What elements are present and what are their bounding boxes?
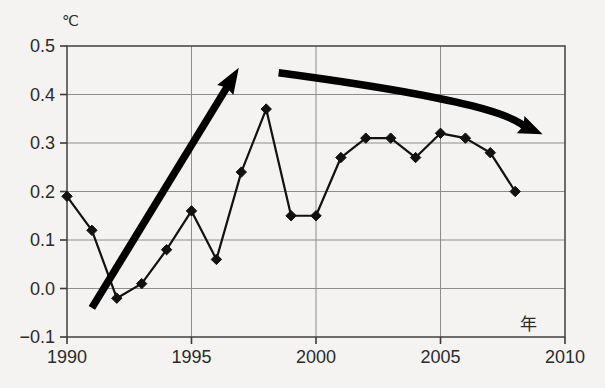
x-tick-label: 2010 [545,347,585,367]
x-axis-unit-label: 年 [520,315,537,334]
y-tick-label: 0.4 [30,85,55,105]
y-tick-label: 0.5 [30,36,55,56]
y-tick-label: 0.2 [30,182,55,202]
y-tick-label: 0.3 [30,133,55,153]
x-tick-label: 1995 [171,347,211,367]
x-tick-label: 1990 [47,347,87,367]
chart-canvas: −0.10.00.10.20.30.40.5 19901995200020052… [0,0,605,388]
x-tick-label: 2005 [420,347,460,367]
temperature-anomaly-chart: −0.10.00.10.20.30.40.5 19901995200020052… [0,0,605,388]
y-tick-label: 0.0 [30,279,55,299]
y-axis-unit-label: ℃ [62,12,79,29]
y-tick-label: −0.1 [19,327,55,347]
y-tick-label: 0.1 [30,230,55,250]
x-tick-label: 2000 [296,347,336,367]
